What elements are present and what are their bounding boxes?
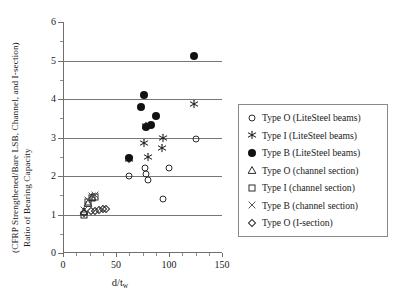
x-tick-minor-12.5	[76, 253, 77, 256]
x-tick-label-50: 50	[111, 260, 121, 270]
legend-item-label: Type B (LiteSteel beams)	[262, 147, 360, 158]
data-point	[139, 139, 148, 148]
chart-legend: Type O (LiteSteel beams)Type I (LiteStee…	[238, 104, 388, 237]
y-tick-minor-5.5	[60, 41, 63, 42]
x-tick-minor-112.5	[182, 253, 183, 256]
legend-item-4: Type I (channel section)	[239, 179, 387, 197]
scatter-chart-figure: Ratio of Bearing Capacity (CFRP Strength…	[0, 0, 393, 305]
data-point	[192, 136, 199, 143]
data-point	[140, 91, 148, 99]
legend-item-5: Type B (channel section)	[239, 197, 387, 215]
open-diamond-icon	[245, 216, 259, 230]
data-point	[190, 52, 198, 60]
y-tick-4	[58, 99, 63, 100]
legend-item-2: Type B (LiteSteel beams)	[239, 144, 387, 162]
x-tick-100	[169, 253, 170, 257]
data-point	[159, 196, 166, 203]
x-tick-50	[116, 253, 117, 257]
y-tick-minor-3.5	[60, 118, 63, 119]
legend-item-6: Type O (I-section)	[239, 214, 387, 232]
x-axis-title: d/tw	[112, 277, 129, 288]
y-tick-minor-2.5	[60, 157, 63, 158]
data-point	[143, 152, 152, 161]
y-tick-minor-1.5	[60, 195, 63, 196]
data-point	[190, 100, 199, 109]
y-tick-1	[58, 215, 63, 216]
data-point	[158, 133, 167, 142]
x-tick-minor-37.5	[103, 253, 104, 256]
cross-icon	[245, 198, 259, 212]
plot-area: 0123456 050100150	[63, 22, 222, 253]
legend-item-label: Type B (channel section)	[262, 200, 358, 211]
legend-item-0: Type O (LiteSteel beams)	[239, 109, 387, 127]
x-tick-minor-75	[143, 253, 144, 256]
data-point	[144, 176, 151, 183]
legend-item-3: Type O (channel section)	[239, 162, 387, 180]
x-tick-minor-125	[196, 253, 197, 256]
y-tick-6	[58, 22, 63, 23]
y-axis-title-line1: Ratio of Bearing Capacity	[22, 148, 32, 247]
x-tick-label-150: 150	[215, 260, 230, 270]
open-circle-icon	[245, 111, 259, 125]
y-tick-label-2: 2	[51, 171, 56, 181]
gridline-y-5	[63, 61, 222, 62]
data-point	[166, 165, 173, 172]
data-point	[125, 173, 132, 180]
x-tick-minor-25	[90, 253, 91, 256]
filled-circle-icon	[245, 146, 259, 160]
x-tick-minor-137.5	[209, 253, 210, 256]
legend-item-label: Type I (channel section)	[262, 182, 355, 193]
open-triangle-icon	[245, 163, 259, 177]
y-tick-label-6: 6	[51, 17, 56, 27]
data-point	[102, 204, 110, 212]
data-point	[147, 121, 155, 129]
y-tick-label-4: 4	[51, 94, 56, 104]
y-tick-label-0: 0	[51, 248, 56, 258]
y-tick-label-1: 1	[51, 210, 56, 220]
data-point	[125, 154, 133, 162]
x-tick-label-100: 100	[162, 260, 177, 270]
x-tick-0	[63, 253, 64, 257]
x-axis-title-base: d/t	[112, 277, 123, 288]
x-tick-150	[222, 253, 223, 257]
legend-item-label: Type O (I-section)	[262, 217, 333, 228]
y-tick-5	[58, 61, 63, 62]
legend-item-label: Type I (LiteSteel beams)	[262, 130, 357, 141]
data-point	[137, 103, 145, 111]
y-tick-label-3: 3	[51, 133, 56, 143]
data-point	[91, 191, 99, 199]
y-tick-2	[58, 176, 63, 177]
data-point	[152, 112, 160, 120]
legend-item-1: Type I (LiteSteel beams)	[239, 127, 387, 145]
x-axis-title-subscript: w	[123, 281, 128, 290]
y-tick-minor-0.5	[60, 234, 63, 235]
open-square-icon	[245, 181, 259, 195]
x-tick-label-0: 0	[61, 260, 66, 270]
legend-item-label: Type O (channel section)	[262, 165, 359, 176]
y-tick-minor-4.5	[60, 80, 63, 81]
data-point	[157, 144, 166, 153]
asterisk-icon	[245, 128, 259, 142]
legend-item-label: Type O (LiteSteel beams)	[262, 112, 361, 123]
x-tick-minor-87.5	[156, 253, 157, 256]
y-tick-3	[58, 138, 63, 139]
x-tick-minor-62.5	[129, 253, 130, 256]
y-tick-label-5: 5	[51, 56, 56, 66]
y-axis-title-line2: (CFRP Strengthened/Bare LSB, Channel, an…	[10, 42, 20, 253]
